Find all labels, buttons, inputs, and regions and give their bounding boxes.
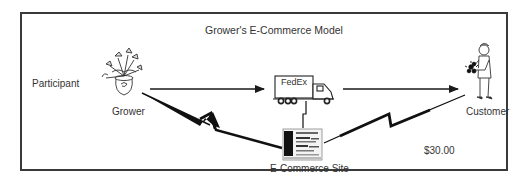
potted-plant-icon	[102, 48, 142, 95]
node-label-grower: Grower	[112, 106, 145, 117]
price-label: $30.00	[424, 145, 455, 156]
node-label-ecommerce-site: E-Commerce Site	[270, 163, 349, 174]
lightning-link-fedex-site	[303, 101, 306, 128]
lightning-link-customer-site	[324, 95, 465, 143]
web-page-screen-icon	[283, 129, 322, 160]
truck-label-fedex: FedEx	[281, 77, 307, 87]
person-holding-flowers-icon	[465, 44, 492, 100]
diagram-title: Grower's E-Commerce Model	[205, 24, 343, 36]
node-label-customer: Customer	[466, 106, 509, 117]
lightning-link-grower-site	[142, 93, 282, 148]
row-label-participant: Participant	[32, 78, 79, 89]
